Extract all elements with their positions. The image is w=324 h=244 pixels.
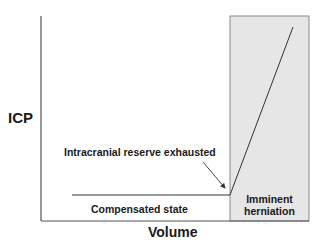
y-axis-label: ICP bbox=[8, 109, 33, 126]
reserve-exhausted-annotation: Intracranial reserve exhausted bbox=[64, 146, 216, 158]
herniation-region bbox=[230, 16, 309, 221]
herniation-line-2: herniation bbox=[230, 205, 309, 217]
herniation-line-1: Imminent bbox=[230, 193, 309, 205]
imminent-herniation-label: Imminent herniation bbox=[230, 193, 309, 217]
reserve-arrow bbox=[203, 162, 225, 188]
x-axis-label: Volume bbox=[148, 224, 198, 240]
compensated-state-label: Compensated state bbox=[91, 203, 188, 215]
